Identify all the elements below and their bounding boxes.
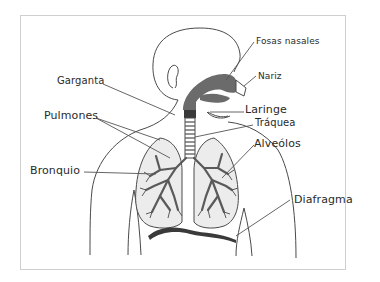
label-traquea: Tráquea (255, 118, 296, 128)
diaphragm-shape (148, 228, 236, 243)
label-laringe: Laringe (245, 104, 287, 115)
label-garganta: Garganta (57, 76, 104, 86)
label-alveolos: Alveólos (254, 138, 301, 149)
label-nariz: Nariz (258, 72, 282, 81)
label-diafragma: Diafragma (294, 194, 353, 205)
label-bronquio: Bronquio (30, 165, 80, 176)
label-pulmones: Pulmones (44, 110, 98, 121)
respiratory-system-illustration (0, 0, 380, 282)
label-fosas-nasales: Fosas nasales (256, 37, 320, 46)
